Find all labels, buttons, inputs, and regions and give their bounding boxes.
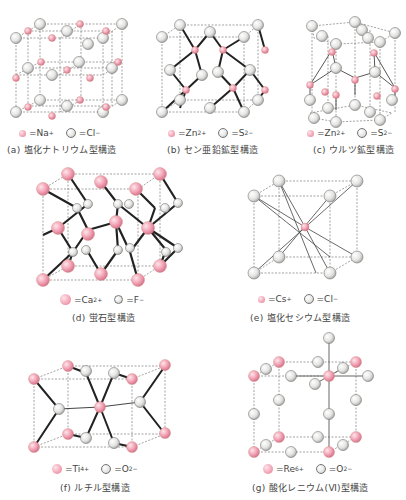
wurtzite-lattice-diagram — [270, 0, 406, 125]
legend-rutile: = Ti4+ = O2− — [52, 464, 138, 474]
cation-symbol: Zn — [325, 128, 337, 138]
panel-nacl-structure: = Na+ = Cl− (a) 塩化ナトリウム型構造 — [0, 0, 135, 160]
cation-swatch-icon — [168, 130, 175, 137]
legend-reo3: = Re6+ = O2− — [263, 464, 352, 474]
caption-rutile: (f) ルチル型構造 — [60, 481, 130, 494]
cation-symbol: Ti — [73, 464, 81, 474]
equals-label: = — [126, 295, 134, 305]
cation-swatch-icon — [258, 296, 265, 303]
cation-charge: + — [287, 296, 292, 302]
cation-charge: 2+ — [197, 130, 206, 136]
cation-swatch-icon — [60, 294, 71, 305]
cation-charge: 6+ — [295, 466, 304, 472]
fluorite-lattice-diagram — [0, 160, 200, 290]
anion-charge: 2− — [343, 466, 352, 472]
cation-charge: + — [49, 130, 54, 136]
anion-swatch-icon — [304, 294, 314, 304]
anion-charge: 2− — [384, 130, 393, 136]
anion-symbol: O — [336, 464, 343, 474]
legend-wurtzite: = Zn2+ = S2− — [307, 128, 392, 138]
equals-label: = — [114, 464, 122, 474]
equals-label: = — [370, 128, 378, 138]
cation-symbol: Zn — [186, 128, 198, 138]
caption-cscl: (e) 塩化セシウム型構造 — [250, 311, 350, 324]
nacl-lattice-diagram — [0, 0, 135, 125]
panel-fluorite-structure: = Ca2+ = F− (d) 蛍石型構造 — [0, 160, 200, 330]
anion-symbol: O — [122, 464, 129, 474]
cation-swatch-icon — [307, 130, 314, 137]
equals-label: = — [317, 294, 325, 304]
legend-nacl: = Na+ = Cl− — [19, 128, 100, 138]
cation-symbol: Re — [284, 464, 295, 474]
cation-symbol: Ca — [82, 295, 94, 305]
reo3-lattice-diagram — [200, 330, 406, 460]
cation-charge: 2+ — [336, 130, 345, 136]
panel-cscl-structure: = Cs+ = Cl− (e) 塩化セシウム型構造 — [200, 160, 406, 330]
anion-swatch-icon — [66, 128, 76, 138]
cation-symbol: Na — [37, 128, 49, 138]
cation-swatch-icon — [263, 464, 273, 474]
equals-label: = — [329, 464, 337, 474]
equals-label: = — [29, 128, 37, 138]
anion-swatch-icon — [316, 464, 326, 474]
equals-label: = — [276, 464, 284, 474]
caption-nacl: (a) 塩化ナトリウム型構造 — [7, 143, 117, 156]
anion-charge: 2− — [245, 130, 254, 136]
caption-reo3: (g) 酸化レニウム(Ⅵ)型構造 — [252, 481, 369, 494]
equals-label: = — [178, 128, 186, 138]
anion-charge: − — [95, 130, 100, 136]
cation-swatch-icon — [19, 130, 26, 137]
caption-wurtzite: (c) ウルツ鉱型構造 — [313, 143, 394, 156]
cation-charge: 2+ — [93, 297, 102, 303]
legend-zinc-blende: = Zn2+ = S2− — [168, 128, 253, 138]
equals-label: = — [231, 128, 239, 138]
anion-charge: − — [333, 296, 338, 302]
equals-label: = — [317, 128, 325, 138]
anion-swatch-icon — [101, 464, 111, 474]
equals-label: = — [268, 294, 276, 304]
caption-zinc-blende: (b) セン亜鉛鉱型構造 — [167, 143, 258, 156]
cation-swatch-icon — [52, 464, 62, 474]
panel-reo3-structure: = Re6+ = O2− (g) 酸化レニウム(Ⅵ)型構造 — [200, 330, 406, 500]
anion-swatch-icon — [357, 128, 367, 138]
rutile-lattice-diagram — [0, 330, 200, 460]
caption-fluorite: (d) 蛍石型構造 — [72, 311, 135, 324]
anion-charge: 2− — [129, 466, 138, 472]
anion-swatch-icon — [218, 128, 228, 138]
equals-label: = — [74, 295, 82, 305]
anion-symbol: Cl — [324, 294, 333, 304]
legend-cscl: = Cs+ = Cl− — [258, 294, 338, 304]
cation-symbol: Cs — [276, 294, 287, 304]
panel-wurtzite-structure: = Zn2+ = S2− (c) ウルツ鉱型構造 — [270, 0, 406, 160]
cscl-lattice-diagram — [200, 160, 406, 290]
zinc-blende-lattice-diagram — [140, 0, 275, 125]
anion-swatch-icon — [114, 295, 123, 304]
equals-label: = — [79, 128, 87, 138]
anion-charge: − — [139, 297, 144, 303]
panel-zinc-blende-structure: = Zn2+ = S2− (b) セン亜鉛鉱型構造 — [140, 0, 275, 160]
legend-fluorite: = Ca2+ = F− — [60, 294, 144, 305]
cation-charge: 4+ — [80, 466, 89, 472]
panel-rutile-structure: = Ti4+ = O2− (f) ルチル型構造 — [0, 330, 200, 500]
equals-label: = — [65, 464, 73, 474]
anion-symbol: Cl — [86, 128, 95, 138]
